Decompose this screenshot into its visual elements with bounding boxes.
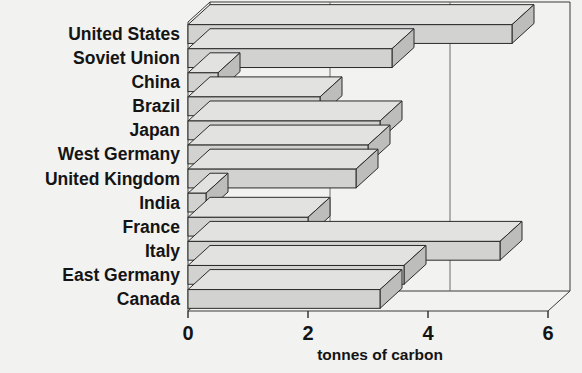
category-label-italy: Italy xyxy=(145,241,180,261)
bar-top-face xyxy=(188,77,342,97)
category-label-united-kingdom: United Kingdom xyxy=(45,169,180,189)
bar-top-face xyxy=(188,101,402,121)
x-tick-label-2: 2 xyxy=(302,322,313,344)
category-label-west-germany: West Germany xyxy=(58,144,180,164)
bar-top-face xyxy=(188,197,330,217)
x-axis-title: tonnes of carbon xyxy=(317,346,443,363)
category-label-france: France xyxy=(123,217,181,237)
category-label-united-states: United States xyxy=(68,24,180,44)
category-label-soviet-union: Soviet Union xyxy=(73,48,180,68)
category-label-japan: Japan xyxy=(129,120,180,140)
category-label-east-germany: East Germany xyxy=(62,265,180,285)
bar-top-face xyxy=(188,125,390,145)
bar-chart-3d: United StatesSoviet UnionChinaBrazilJapa… xyxy=(0,0,582,373)
bar-front-face xyxy=(188,290,380,309)
bar-top-face xyxy=(188,221,522,241)
category-label-india: India xyxy=(139,193,180,213)
category-label-china: China xyxy=(131,72,180,92)
x-tick-label-6: 6 xyxy=(542,322,553,344)
bar-top-face xyxy=(188,270,402,290)
chart-page: United StatesSoviet UnionChinaBrazilJapa… xyxy=(0,0,582,373)
bar-top-face xyxy=(188,29,414,49)
bar-canada xyxy=(188,270,402,309)
bar-top-face xyxy=(188,5,534,25)
category-label-canada: Canada xyxy=(117,289,180,309)
bar-top-face xyxy=(188,245,426,265)
bar-top-face xyxy=(188,149,378,169)
x-tick-label-0: 0 xyxy=(182,322,193,344)
x-tick-label-4: 4 xyxy=(422,322,434,344)
category-label-brazil: Brazil xyxy=(132,96,180,116)
